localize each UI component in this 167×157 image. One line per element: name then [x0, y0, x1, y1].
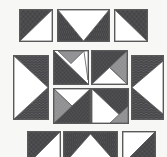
middle-right-tall-rectangle — [131, 55, 164, 120]
middle-lower-left-square — [53, 88, 91, 124]
bottom-left-square-shape — [28, 132, 60, 157]
bottom-right-square-shape — [123, 132, 155, 157]
middle-lower-right-square-shape — [92, 89, 128, 123]
pattern-pieces-canvas — [0, 0, 167, 157]
middle-lower-right-square — [91, 88, 129, 124]
top-left-square — [19, 9, 53, 42]
top-middle-rectangle-shape — [58, 10, 109, 41]
middle-upper-left-square-shape — [54, 51, 88, 84]
middle-upper-right-square — [91, 50, 128, 85]
top-left-square-shape — [20, 10, 52, 41]
bottom-right-square — [122, 131, 156, 157]
top-middle-rectangle — [57, 9, 110, 42]
top-right-square-shape — [115, 10, 147, 41]
white-right-wedge — [84, 51, 88, 80]
top-right-square — [114, 9, 148, 42]
bottom-middle-rectangle — [63, 131, 118, 157]
middle-upper-right-square-shape — [92, 51, 127, 84]
middle-upper-left-square — [53, 50, 89, 85]
bottom-left-square — [27, 131, 61, 157]
middle-left-tall-rectangle — [13, 55, 49, 120]
bottom-middle-rectangle-shape — [64, 132, 117, 157]
middle-lower-left-square-shape — [54, 89, 90, 123]
middle-left-tall-rectangle-shape — [14, 56, 48, 119]
middle-right-tall-rectangle-shape — [132, 56, 163, 119]
